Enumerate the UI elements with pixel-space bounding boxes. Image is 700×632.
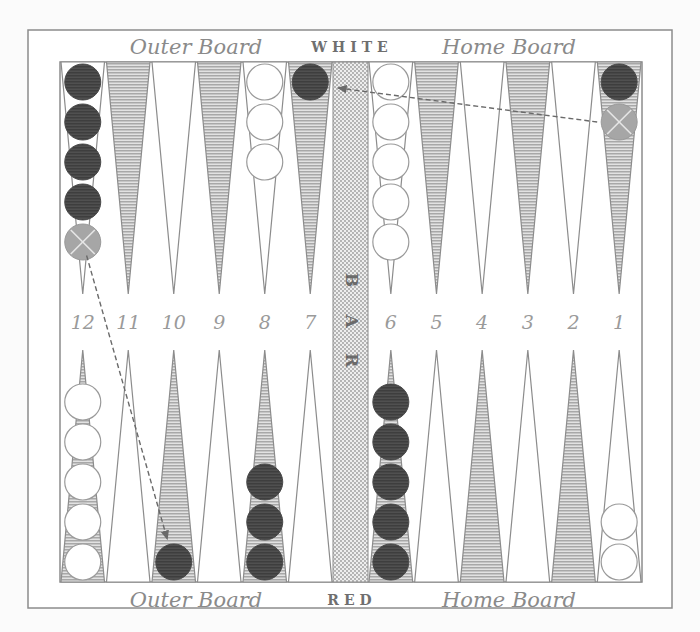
backgammon-board: B A R 121110987654321 Outer Board WHITE … [0, 0, 700, 632]
bottom-side-label: RED [327, 592, 376, 608]
white-checker-top-6[interactable] [373, 144, 409, 180]
point-number-4: 4 [475, 311, 488, 333]
white-checker-bottom-12[interactable] [65, 544, 101, 580]
point-number-6: 6 [385, 311, 397, 333]
white-checker-bottom-1[interactable] [601, 504, 637, 540]
white-checker-top-6[interactable] [373, 224, 409, 260]
dark-checker-bottom-8[interactable] [247, 544, 283, 580]
dark-checker-bottom-6[interactable] [373, 384, 409, 420]
point-number-12: 12 [71, 311, 95, 333]
dark-checker-bottom-6[interactable] [373, 544, 409, 580]
ghost-checker-top-12 [65, 224, 101, 260]
white-checker-bottom-12[interactable] [65, 384, 101, 420]
dark-checker-top-12[interactable] [65, 64, 101, 100]
point-number-11: 11 [116, 311, 140, 333]
dark-checker-bottom-8[interactable] [247, 504, 283, 540]
bar-letter-b: B [342, 273, 362, 287]
point-number-9: 9 [213, 311, 225, 333]
dark-checker-top-12[interactable] [65, 104, 101, 140]
dark-checker-top-12[interactable] [65, 184, 101, 220]
white-checker-top-6[interactable] [373, 184, 409, 220]
point-number-3: 3 [522, 311, 534, 333]
bar-letter-r: R [342, 353, 362, 368]
top-right-quadrant-label: Home Board [441, 35, 576, 59]
dark-checker-bottom-6[interactable] [373, 464, 409, 500]
ghost-checker-top-1 [601, 104, 637, 140]
white-checker-top-8[interactable] [247, 144, 283, 180]
point-number-2: 2 [566, 311, 579, 333]
point-number-8: 8 [259, 311, 271, 333]
white-checker-bottom-12[interactable] [65, 504, 101, 540]
white-checker-bottom-12[interactable] [65, 464, 101, 500]
point-number-7: 7 [304, 311, 317, 333]
point-number-1: 1 [613, 311, 625, 333]
dark-checker-top-12[interactable] [65, 144, 101, 180]
dark-checker-bottom-8[interactable] [247, 464, 283, 500]
white-checker-bottom-1[interactable] [601, 544, 637, 580]
dark-checker-top-7[interactable] [292, 64, 328, 100]
dark-checker-bottom-10[interactable] [156, 544, 192, 580]
top-side-label: WHITE [310, 39, 393, 55]
white-checker-top-6[interactable] [373, 104, 409, 140]
dark-checker-top-1[interactable] [601, 64, 637, 100]
point-number-5: 5 [430, 311, 442, 333]
bottom-left-quadrant-label: Outer Board [130, 588, 262, 612]
white-checker-top-8[interactable] [247, 64, 283, 100]
dark-checker-bottom-6[interactable] [373, 504, 409, 540]
top-left-quadrant-label: Outer Board [130, 35, 262, 59]
white-checker-bottom-12[interactable] [65, 424, 101, 460]
bar-letter-a: A [342, 313, 362, 328]
bottom-right-quadrant-label: Home Board [441, 588, 576, 612]
white-checker-top-8[interactable] [247, 104, 283, 140]
point-number-10: 10 [162, 311, 186, 333]
dark-checker-bottom-6[interactable] [373, 424, 409, 460]
